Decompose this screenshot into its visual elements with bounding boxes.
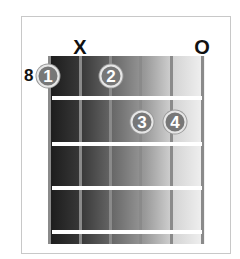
string-4 (139, 56, 142, 244)
fret-line-2 (52, 142, 202, 146)
finger-dot-1: 1 (37, 65, 60, 88)
string-5 (170, 56, 173, 244)
muted-string-marker: X (73, 36, 86, 59)
fretboard (48, 56, 205, 244)
fret-line-1 (52, 96, 202, 100)
open-string-marker: O (194, 36, 210, 59)
start-fret-number: 8 (24, 66, 33, 86)
finger-dot-2: 2 (100, 65, 123, 88)
finger-dot-4: 4 (164, 111, 187, 134)
finger-dot-3: 3 (131, 111, 154, 134)
string-6 (201, 56, 204, 244)
fret-line-3 (52, 186, 202, 190)
fret-line-4 (52, 230, 202, 234)
string-2 (79, 56, 82, 244)
